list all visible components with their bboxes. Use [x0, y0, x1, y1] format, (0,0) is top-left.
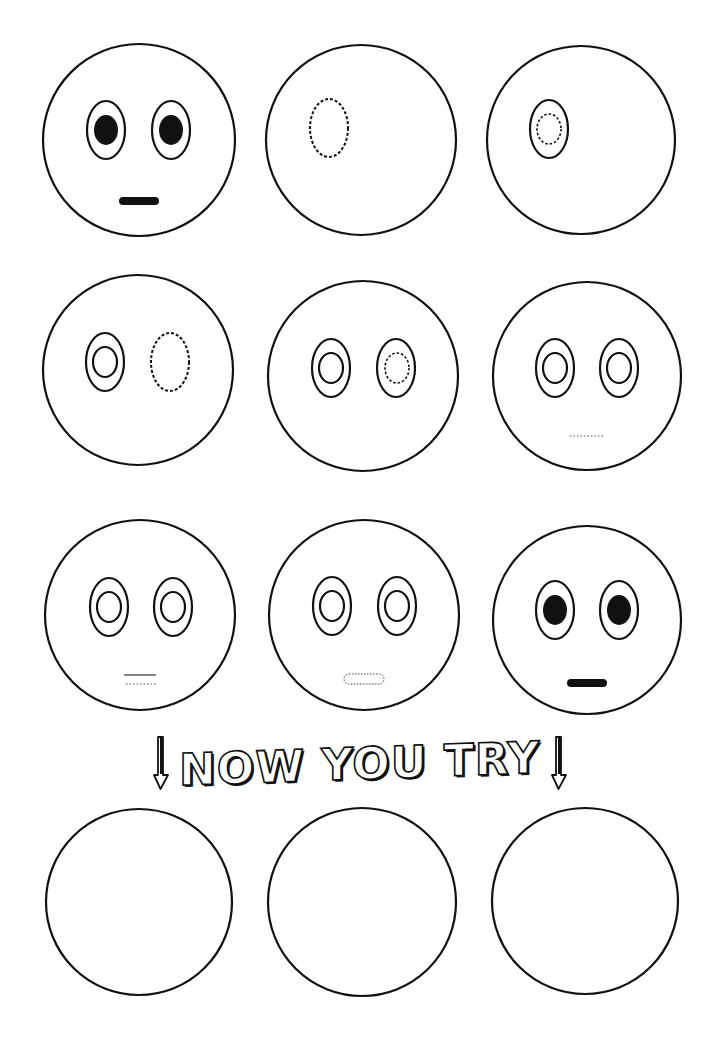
- step-3-face: [484, 43, 678, 237]
- step-8-face: [266, 517, 462, 713]
- step-9-face: [490, 523, 684, 717]
- mouth: [119, 197, 159, 205]
- practice-circle-2[interactable]: [266, 806, 458, 998]
- step-7-face: [42, 517, 238, 713]
- right-pupil: [607, 595, 631, 625]
- step-1-face: [40, 41, 238, 239]
- step-6-face: [490, 279, 684, 473]
- now-you-try-banner: NOW YOU TRY: [185, 732, 535, 794]
- practice-circle-3[interactable]: [490, 806, 680, 996]
- practice-circle-1[interactable]: [44, 807, 234, 997]
- down-arrow-icon: [153, 735, 169, 791]
- step-4-face: [40, 272, 236, 468]
- left-pupil: [543, 595, 567, 625]
- down-arrow-icon: [551, 735, 567, 791]
- step-2-face: [263, 42, 459, 238]
- left-pupil: [94, 115, 118, 145]
- face-drawing-worksheet: NOW YOU TRY: [0, 0, 724, 1055]
- banner-text: NOW YOU TRY: [179, 731, 540, 795]
- step-5-face: [265, 278, 461, 474]
- mouth: [567, 679, 607, 687]
- right-pupil: [159, 115, 183, 145]
